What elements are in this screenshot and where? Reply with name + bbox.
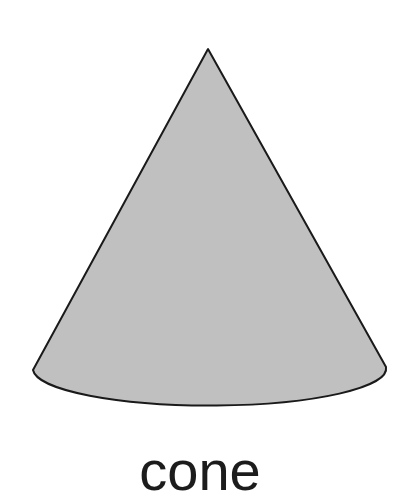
figure-caption: cone	[0, 443, 400, 496]
cone-figure	[0, 0, 400, 496]
